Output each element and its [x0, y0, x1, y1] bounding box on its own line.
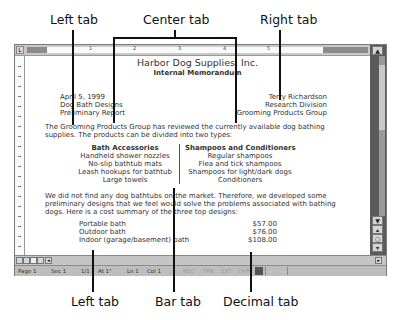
ruler-number: 1 [89, 45, 92, 51]
header-group: Grooming Products Group [237, 109, 327, 117]
pointer-left-tab-bottom [92, 250, 94, 292]
web-layout-view-button[interactable] [23, 257, 30, 264]
col2-item: Regular shampoos [185, 152, 295, 160]
ruler-number: 3 [178, 45, 181, 51]
status-rec[interactable]: REC [183, 268, 194, 274]
vertical-scrollbar[interactable]: ▲ ▼ ▴ ○ ▾ [370, 45, 386, 255]
scroll-up-button[interactable]: ▲ [372, 46, 383, 55]
callout-left-tab-bottom: Left tab [71, 294, 119, 309]
scroll-down-button[interactable]: ▼ [372, 216, 383, 225]
status-ovr[interactable]: OVR [238, 268, 250, 274]
col2-heading: Shampoos and Conditioners [185, 144, 295, 152]
header-author: Terry Richardson [269, 93, 327, 101]
para2-line-2: preliminary designs that we feel would s… [45, 200, 336, 208]
ruler-number: 2 [133, 45, 136, 51]
status-section: Sec 1 [51, 268, 66, 274]
header-division: Research Division [265, 101, 327, 109]
pointer-decimal-tab [250, 252, 252, 292]
select-browse-object-button[interactable]: ○ [372, 234, 383, 243]
col1-item: Large towels [75, 176, 175, 184]
pointer-bar-tab [173, 188, 175, 292]
callout-bar-tab: Bar tab [155, 294, 201, 309]
col1-heading: Bath Accessories [75, 144, 175, 152]
print-layout-view-button[interactable] [30, 257, 37, 264]
cost-item-price: $76.00 [235, 228, 277, 236]
col1-item: Leash hookups for bathtub [75, 168, 175, 176]
doc-subtitle: Internal Memorandum [25, 69, 370, 77]
ruler-left-margin [27, 47, 47, 53]
next-page-button[interactable]: ▾ [372, 243, 383, 252]
horizontal-scrollbar[interactable]: ◂ ▸ [15, 255, 386, 265]
intro-line-1: The Grooming Products Group has reviewed… [45, 123, 325, 131]
cost-item-price: $57.00 [235, 220, 277, 228]
status-line: Ln 1 [127, 268, 139, 274]
pointer-right-tab [279, 30, 281, 100]
ruler-right-margin [323, 47, 368, 53]
pointer-center-tab-right [235, 37, 237, 123]
status-page-of: 1/1 [81, 268, 90, 274]
col2-item: Flea and tick shampoos [185, 160, 295, 168]
word-window: L 1 2 3 4 5 Harbor Dog Supplies, Inc. In… [14, 44, 387, 276]
para2-line-1: We did not find any dog bathtubs on the … [45, 192, 327, 200]
outline-view-button[interactable] [37, 257, 44, 264]
previous-page-button[interactable]: ▴ [372, 225, 383, 234]
status-column: Col 1 [147, 268, 161, 274]
status-trk[interactable]: TRK [203, 268, 214, 274]
pointer-center-tab-left [113, 37, 115, 123]
intro-line-2: supplies. The products can be divided in… [45, 131, 232, 139]
callout-left-tab-top: Left tab [50, 12, 98, 27]
scroll-right-button[interactable]: ▸ [375, 257, 382, 264]
cost-item-name: Outdoor bath [79, 228, 126, 236]
header-date: April 5, 1999 [60, 93, 105, 101]
status-ext[interactable]: EXT [221, 268, 232, 274]
tab-selector-icon[interactable]: L [16, 46, 24, 54]
para2-line-3: dogs. Here is a cost summary of the thre… [45, 208, 238, 216]
spelling-check-icon[interactable] [255, 267, 263, 275]
vertical-ruler [15, 56, 25, 255]
ruler-number: 5 [267, 45, 270, 51]
status-at: At 1" [98, 268, 112, 274]
col1-item: No-slip bathtub mats [75, 160, 175, 168]
scroll-thumb[interactable] [379, 65, 385, 130]
doc-title: Harbor Dog Supplies, Inc. [25, 57, 370, 68]
col2-item: Conditioners [185, 176, 295, 184]
col1-item: Handheld shower nozzles [75, 152, 175, 160]
pointer-left-tab-top [72, 30, 74, 125]
cost-item-price: $108.00 [235, 236, 277, 244]
callout-right-tab: Right tab [260, 12, 317, 27]
horizontal-ruler[interactable]: L 1 2 3 4 5 [15, 45, 370, 56]
status-page: Page 1 [18, 268, 37, 274]
status-bar: Page 1 Sec 1 1/1 At 1" Ln 1 Col 1 REC TR… [15, 265, 386, 276]
header-report: Preliminary Report [60, 109, 125, 117]
normal-view-button[interactable] [16, 257, 23, 264]
ruler-number: 4 [223, 45, 226, 51]
cost-item-name: Portable bath [79, 220, 126, 228]
bar-tab-line [179, 144, 180, 184]
document-page[interactable]: Harbor Dog Supplies, Inc. Internal Memor… [25, 56, 370, 255]
scroll-left-button[interactable]: ◂ [45, 257, 52, 264]
callout-center-tab: Center tab [143, 12, 210, 27]
col2-item: Shampoos for light/dark dogs [185, 168, 295, 176]
callout-decimal-tab: Decimal tab [223, 294, 298, 309]
